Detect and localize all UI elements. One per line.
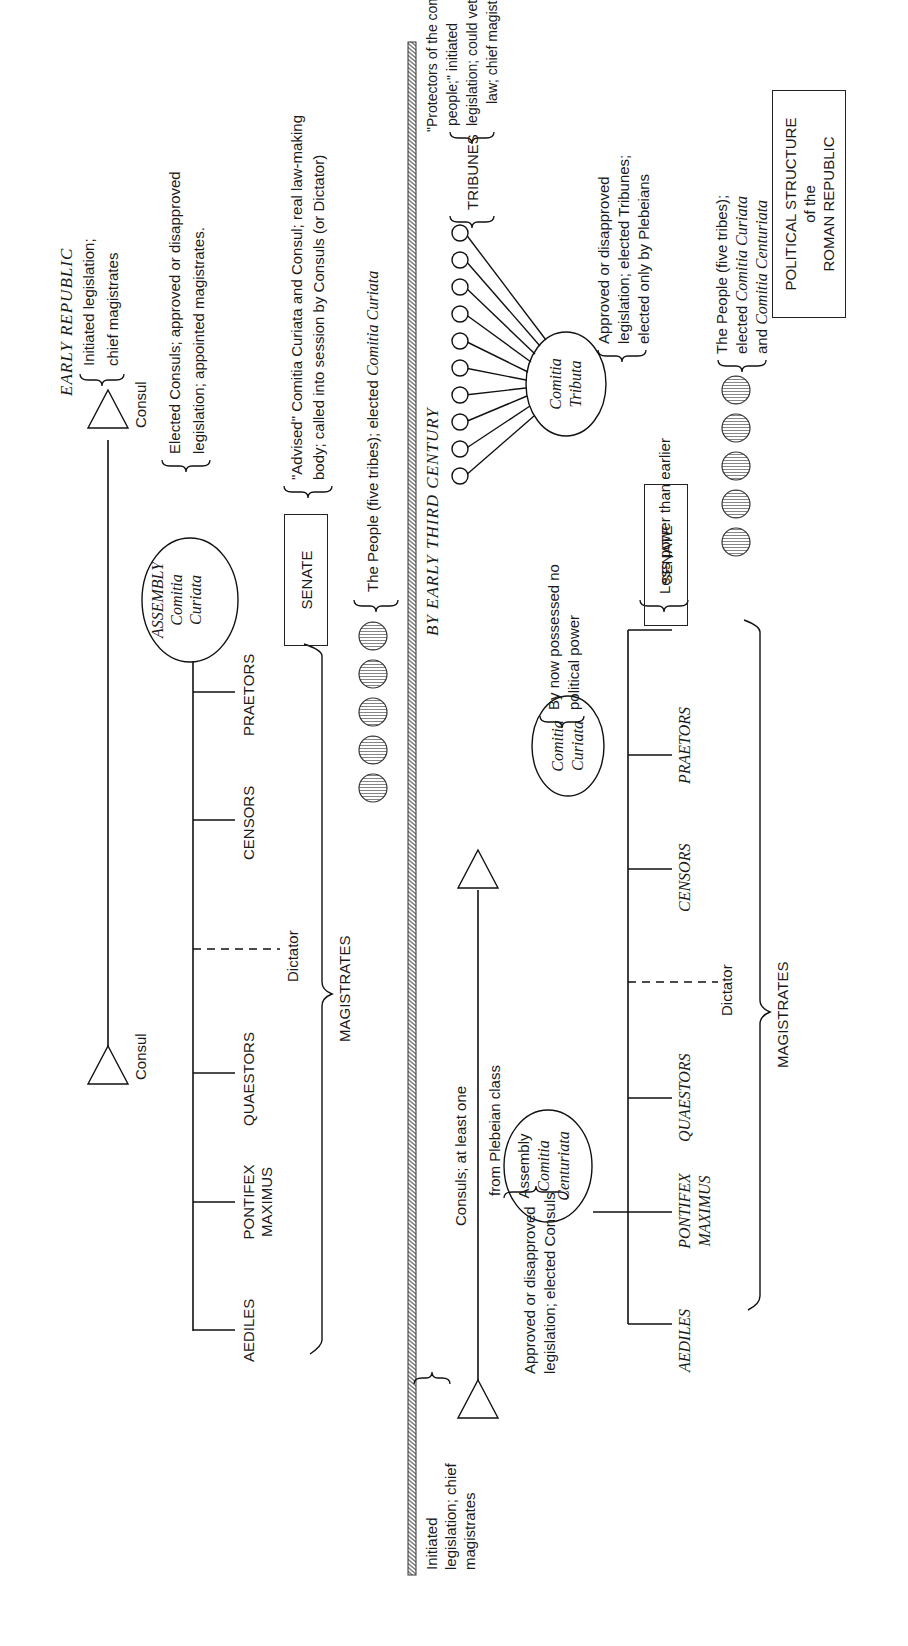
people-note-text: The People (five tribes); elected (364, 376, 381, 592)
tributa-ellipse-text: Comitia Tributa (546, 334, 586, 434)
senate-box-early: SENATE (284, 514, 328, 646)
tribunes-note: "Protectors of the common people;" initi… (422, 0, 502, 126)
curiata-line2: Curiata (568, 696, 588, 796)
senate-note-line1: "Advised" Comitia Curiata and Consul; re… (288, 115, 306, 480)
consul-left-note-line1: Initiated (422, 1463, 441, 1570)
dictator-label: Dictator (284, 930, 302, 982)
title-line2: of the (800, 185, 819, 223)
centuriata-line3: Centuriata (554, 1112, 574, 1220)
consul-left-note-line2: legislation; chief (441, 1463, 460, 1570)
tribune-circles (452, 225, 546, 484)
curiata-note: By now possessed no political power (544, 564, 584, 710)
tribunes-label: TRIBUNES (464, 134, 482, 210)
magistrates-label: MAGISTRATES (336, 936, 354, 1042)
assembly-early: ASSEMBLY Comitia Curiata (148, 538, 205, 662)
title-line1: POLITICAL STRUCTURE (781, 118, 800, 291)
assembly-centuriata: Assembly Comitia Centuriata (514, 1112, 574, 1220)
people-note-3rd-line2-italic: Comitia Curiata (733, 196, 750, 301)
consul-left-label: Consul (132, 1033, 150, 1080)
assembly-note-line2: legislation; appointed magistrates. (190, 227, 208, 454)
magistrate-censors-3rd: CENSORS (676, 844, 694, 912)
tributa-line1: Comitia (546, 334, 566, 434)
assembly-note-line1: Elected Consuls; approved or disapproved (166, 171, 184, 454)
people-note-3rd-line1: The People (five tribes); (712, 195, 732, 354)
people-note-3rd-line2: elected (733, 301, 750, 354)
tributa-note-line1: Approved or disapproved (594, 155, 614, 344)
magistrate-pontifex: PONTIFEX (240, 1162, 258, 1242)
magistrate-aediles: AEDILES (240, 1299, 258, 1362)
assembly-line3: Curiata (186, 538, 205, 662)
curiata-note-line2: political power (564, 564, 584, 710)
magistrate-praetors-3rd: PRAETORS (676, 707, 694, 784)
people-circles-early (359, 622, 387, 802)
tribunes-note-line3: legislation; could veto any (462, 0, 482, 126)
people-note-3rd-line3-italic: Comitia Centuriata (753, 200, 770, 325)
consul-note-line2: chief magistrates (104, 253, 122, 366)
senate-note-line2: body; called into session by Consuls (or… (310, 155, 328, 480)
magistrates-label-3rd: MAGISTRATES (774, 962, 792, 1068)
dictator-label-3rd: Dictator (718, 964, 736, 1016)
tribunes-note-line1: "Protectors of the common (422, 0, 442, 132)
tribunes-note-line2: people;" initiated (442, 0, 462, 126)
title-line3: ROMAN REPUBLIC (819, 136, 838, 271)
magistrate-quaestors-3rd: QUAESTORS (676, 1053, 694, 1142)
people-circles-third (722, 376, 750, 556)
consul-left-note-line3: magistrates (460, 1463, 479, 1570)
title-box: POLITICAL STRUCTURE of the ROMAN REPUBLI… (772, 90, 846, 318)
magistrate-maximus-3rd: MAXIMUS (696, 1166, 714, 1256)
tributa-note: Approved or disapproved legislation; ele… (594, 155, 654, 344)
magistrate-praetors: PRAETORS (240, 654, 258, 736)
section-divider (408, 42, 416, 1575)
curiata-ellipse-text: Comitia Curiata (548, 696, 588, 796)
centuriata-line1: Assembly (514, 1112, 534, 1220)
curiata-line1: Comitia (548, 696, 568, 796)
tributa-line2: Tributa (566, 334, 586, 434)
magistrate-censors: CENSORS (240, 786, 258, 860)
centuriata-line2: Comitia (534, 1112, 554, 1220)
roman-republic-diagram: EARLY REPUBLIC Consul Consul Initiated l… (0, 0, 908, 1646)
consul-right-label: Consul (132, 381, 150, 428)
tributa-note-line2: legislation; elected Tribunes; (614, 155, 634, 344)
consul-left-note-3rd: Initiated legislation; chief magistrates (422, 1463, 479, 1570)
magistrate-quaestors: QUAESTORS (240, 1032, 258, 1126)
people-note-early: The People (five tribes); elected Comiti… (364, 271, 382, 592)
curiata-note-line1: By now possessed no (544, 564, 564, 710)
magistrate-maximus: MAXIMUS (258, 1162, 276, 1242)
tributa-note-line3: elected only by Plebeians (634, 155, 654, 344)
people-note-3rd: The People (five tribes); elected Comiti… (712, 195, 772, 354)
senate-label: SENATE (298, 551, 315, 610)
third-century-heading: BY EARLY THIRD CENTURY (424, 407, 442, 636)
people-note-italic: Comitia Curiata (364, 271, 381, 376)
magistrate-aediles-3rd: AEDILES (676, 1309, 694, 1372)
senate-note-3rd: Less power than earlier (656, 438, 674, 594)
consuls-note-line1: Consuls; at least one (452, 1086, 470, 1226)
magistrate-pontifex-3rd: PONTIFEX (676, 1166, 694, 1256)
people-note-3rd-line3: and (753, 325, 770, 354)
tribunes-note-line4: law; chief magistrates (482, 0, 502, 104)
consul-note-line1: Initiated legislation; (80, 238, 98, 366)
assembly-line2: Comitia (167, 538, 186, 662)
early-republic-heading: EARLY REPUBLIC (58, 248, 76, 396)
consuls-note-line2: from Plebeian class (486, 1065, 504, 1196)
assembly-line1: ASSEMBLY (148, 538, 167, 662)
